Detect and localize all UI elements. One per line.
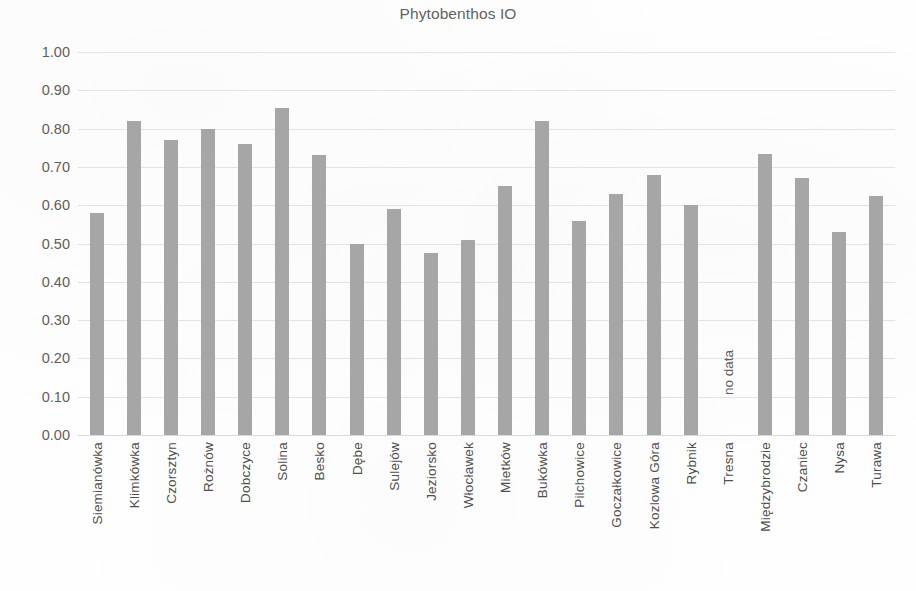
x-axis-tick: Pilchowice (561, 436, 598, 591)
x-axis-tick-labels: SiemianówkaKlimkówkaCzorsztynRożnówDobcz… (78, 436, 895, 591)
x-axis-tick: Siemianówka (78, 436, 115, 591)
bar[interactable] (461, 240, 475, 435)
plot-area: no data (78, 52, 895, 435)
bar[interactable] (684, 205, 698, 435)
x-axis-tick: Dobczyce (227, 436, 264, 591)
bar[interactable] (127, 121, 141, 435)
no-data-annotation: no data (720, 350, 735, 395)
bar[interactable] (795, 178, 809, 435)
bar-slot (858, 52, 895, 435)
y-axis-tick-label: 1.00 (10, 44, 70, 60)
chart-title: Phytobenthos IO (0, 5, 916, 23)
chart-container: Phytobenthos IO 0.000.100.200.300.400.50… (0, 0, 916, 591)
y-axis-tick-label: 0.30 (10, 312, 70, 328)
x-axis-tick-label: Tresna (720, 442, 735, 485)
x-axis-tick-label: Kozlowa Góra (646, 442, 661, 529)
x-axis-tick: Goczałkowice (598, 436, 635, 591)
y-axis-tick-label: 0.90 (10, 82, 70, 98)
x-axis-tick: Czorsztyn (152, 436, 189, 591)
x-axis-tick: Kozlowa Góra (635, 436, 672, 591)
bar[interactable] (572, 221, 586, 435)
x-axis-tick-label: Międzybrodzie (758, 442, 773, 532)
bar[interactable] (275, 108, 289, 435)
bar[interactable] (201, 129, 215, 435)
y-axis-tick-label: 0.10 (10, 389, 70, 405)
x-axis-tick-label: Mietków (498, 442, 513, 493)
x-axis-tick: Czaniec (784, 436, 821, 591)
x-axis-tick-label: Bukówka (535, 442, 550, 498)
bar[interactable] (832, 232, 846, 435)
bar-slot (487, 52, 524, 435)
bar-slot (821, 52, 858, 435)
y-axis-tick-labels: 0.000.100.200.300.400.500.600.700.800.90… (10, 52, 70, 435)
x-axis-tick: Klimkówka (115, 436, 152, 591)
bar-slot (746, 52, 783, 435)
bar-slot (412, 52, 449, 435)
x-axis-tick: Sulejów (375, 436, 412, 591)
bar-slot (524, 52, 561, 435)
bar[interactable] (535, 121, 549, 435)
bar-slot (189, 52, 226, 435)
x-axis-tick-label: Klimkówka (126, 442, 141, 508)
x-axis-tick-label: Rybnik (683, 442, 698, 484)
x-axis-tick: Nysa (821, 436, 858, 591)
x-axis-tick: Mietków (487, 436, 524, 591)
bar[interactable] (238, 144, 252, 435)
x-axis-tick-label: Nysa (832, 442, 847, 474)
bar-slot (561, 52, 598, 435)
bar-slot (338, 52, 375, 435)
x-axis-tick: Rybnik (672, 436, 709, 591)
bar[interactable] (387, 209, 401, 435)
y-axis-tick-label: 0.60 (10, 197, 70, 213)
y-axis-tick-label: 0.00 (10, 427, 70, 443)
bar[interactable] (164, 140, 178, 435)
bar-slot (301, 52, 338, 435)
bar[interactable] (498, 186, 512, 435)
bar[interactable] (609, 194, 623, 435)
x-axis-tick-label: Pilchowice (572, 442, 587, 508)
bar-slot (152, 52, 189, 435)
y-axis-tick-label: 0.40 (10, 274, 70, 290)
bar-slot (784, 52, 821, 435)
y-axis-tick-label: 0.70 (10, 159, 70, 175)
bar-slot (375, 52, 412, 435)
x-axis-tick-label: Solina (275, 442, 290, 481)
x-axis-tick: Tresna (709, 436, 746, 591)
bar-slot (449, 52, 486, 435)
bar[interactable] (312, 155, 326, 435)
y-axis-tick-label: 0.50 (10, 236, 70, 252)
bar-slot (598, 52, 635, 435)
bar[interactable] (758, 154, 772, 436)
bar-slot (115, 52, 152, 435)
x-axis-tick-label: Sulejów (386, 442, 401, 491)
y-axis-tick-label: 0.80 (10, 121, 70, 137)
x-axis-tick-label: Rożnów (200, 442, 215, 492)
bar[interactable] (90, 213, 104, 435)
bar[interactable] (869, 196, 883, 435)
bar-slot (78, 52, 115, 435)
x-axis-tick: Solina (264, 436, 301, 591)
x-axis-tick-label: Czaniec (795, 442, 810, 492)
x-axis-tick-label: Dębe (349, 442, 364, 475)
x-axis-tick: Jeziorsko (412, 436, 449, 591)
bar-slot (227, 52, 264, 435)
x-axis-tick-label: Dobczyce (238, 442, 253, 503)
bar-slot (264, 52, 301, 435)
bar-slot (635, 52, 672, 435)
x-axis-tick: Rożnów (189, 436, 226, 591)
bar[interactable] (424, 253, 438, 435)
x-axis-tick: Dębe (338, 436, 375, 591)
bar[interactable] (350, 244, 364, 436)
x-axis-tick: Turawa (858, 436, 895, 591)
x-axis-tick-label: Siemianówka (89, 442, 104, 525)
x-axis-tick-label: Jeziorsko (423, 442, 438, 501)
x-axis-tick: Besko (301, 436, 338, 591)
x-axis-tick-label: Turawa (869, 442, 884, 488)
y-axis-tick-label: 0.20 (10, 350, 70, 366)
bar[interactable] (647, 175, 661, 435)
x-axis-tick-label: Besko (312, 442, 327, 481)
x-axis-tick: Włocławek (449, 436, 486, 591)
bar-slot (672, 52, 709, 435)
x-axis-tick-label: Goczałkowice (609, 442, 624, 528)
x-axis-tick-label: Włocławek (460, 442, 475, 508)
